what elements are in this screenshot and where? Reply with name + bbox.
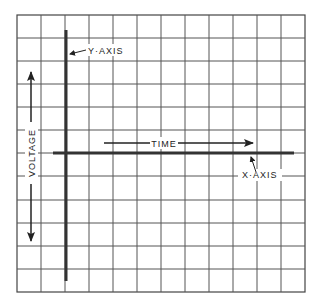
graph-diagram: TIME VOLTAGE Y·AXIS X·AXIS bbox=[0, 0, 323, 306]
y-axis-pointer bbox=[70, 50, 86, 54]
y-axis-label: Y·AXIS bbox=[88, 46, 124, 56]
x-axis-label: X·AXIS bbox=[242, 170, 278, 180]
time-label: TIME bbox=[151, 139, 177, 149]
voltage-label: VOLTAGE bbox=[27, 129, 37, 177]
